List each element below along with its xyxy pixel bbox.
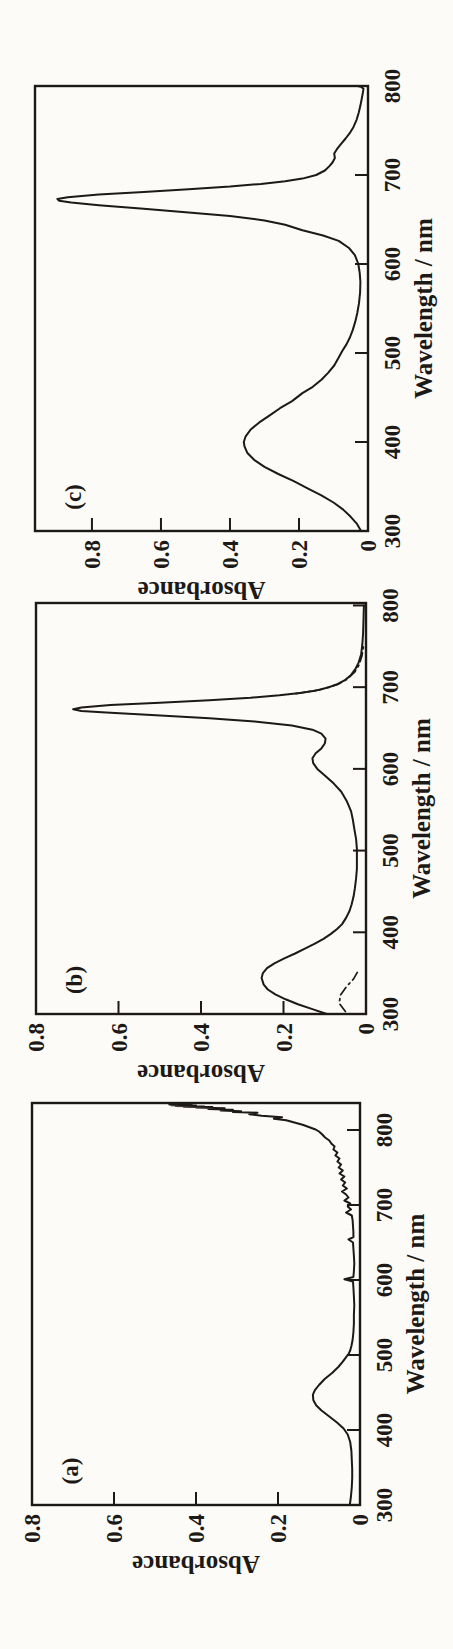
y-axis-tick-label: 0.8: [20, 1514, 45, 1543]
y-axis-tick-label: 0: [348, 1514, 373, 1526]
y-axis-tick-label: 0.4: [218, 540, 243, 569]
x-axis-tick-label: 500: [380, 336, 405, 371]
panel-a: 30040050060070080000.20.40.60.8Wavelengt…: [20, 1095, 442, 1575]
panel-letter-label: (b): [62, 966, 87, 994]
y-axis-tick-label: 0.4: [189, 1023, 214, 1052]
x-axis-tick-label: 600: [378, 752, 403, 787]
x-axis-tick-label: 400: [378, 915, 403, 950]
plot-border: [36, 603, 366, 1014]
x-axis-tick-label: 700: [378, 670, 403, 705]
x-axis-tick-label: 600: [380, 247, 405, 282]
y-axis-title: Absorbance: [137, 1060, 265, 1087]
panel-b: 30040050060070080000.20.40.60.8Wavelengt…: [24, 595, 448, 1084]
y-axis-tick-label: 0.8: [80, 540, 105, 569]
spectrum-chart-b: 30040050060070080000.20.40.60.8Wavelengt…: [24, 595, 448, 1084]
spectrum-chart-c: 30040050060070080000.20.40.60.8Wavelengt…: [23, 78, 450, 601]
spectrum-curve: [169, 1103, 354, 1505]
x-axis-tick-label: 600: [372, 1263, 397, 1298]
y-axis-tick-label: 0: [354, 1023, 379, 1035]
panel-c: 30040050060070080000.20.40.60.8Wavelengt…: [23, 78, 450, 601]
x-axis-tick-label: 800: [372, 1113, 397, 1148]
panel-letter-label: (a): [58, 1458, 83, 1485]
x-axis-tick-label: 700: [380, 158, 405, 193]
x-axis-tick-label: 300: [380, 514, 405, 549]
y-axis-tick-label: 0.4: [184, 1514, 209, 1543]
spectrum-curve: [57, 86, 363, 531]
x-axis-tick-label: 800: [380, 69, 405, 104]
y-axis-tick-label: 0.2: [287, 540, 312, 569]
y-axis-tick-label: 0.6: [102, 1514, 127, 1543]
panel-c-rotated-content: 30040050060070080000.20.40.60.8Wavelengt…: [23, 78, 450, 601]
y-axis-tick-label: 0.2: [272, 1023, 297, 1052]
x-axis-title: Wavelength / nm: [410, 218, 437, 399]
spectrum-chart-a: 30040050060070080000.20.40.60.8Wavelengt…: [20, 1095, 442, 1575]
y-axis-tick-label: 0.2: [266, 1514, 291, 1543]
x-axis-tick-label: 400: [380, 425, 405, 460]
x-axis-tick-label: 300: [378, 997, 403, 1032]
x-axis-tick-label: 800: [378, 588, 403, 623]
x-axis-title: Wavelength / nm: [408, 718, 435, 899]
y-axis-tick-label: 0: [356, 540, 381, 552]
y-axis-tick-label: 0.8: [24, 1023, 49, 1052]
panel-a-rotated-content: 30040050060070080000.20.40.60.8Wavelengt…: [20, 1095, 442, 1575]
x-axis-tick-label: 300: [372, 1488, 397, 1523]
plot-border: [32, 1103, 360, 1505]
x-axis-title: Wavelength / nm: [402, 1214, 429, 1395]
panel-letter-label: (c): [61, 484, 86, 510]
x-axis-tick-label: 500: [378, 833, 403, 868]
x-axis-tick-label: 500: [372, 1338, 397, 1373]
y-axis-tick-label: 0.6: [149, 540, 174, 569]
x-axis-tick-label: 700: [372, 1188, 397, 1223]
y-axis-title: Absorbance: [132, 1551, 260, 1578]
x-axis-tick-label: 400: [372, 1413, 397, 1448]
plot-border: [35, 86, 368, 531]
spectrum-curve-dashed: [339, 972, 358, 1012]
y-axis-tick-label: 0.6: [107, 1023, 132, 1052]
panel-b-rotated-content: 30040050060070080000.20.40.60.8Wavelengt…: [24, 595, 448, 1084]
spectrum-curve: [73, 606, 364, 1015]
